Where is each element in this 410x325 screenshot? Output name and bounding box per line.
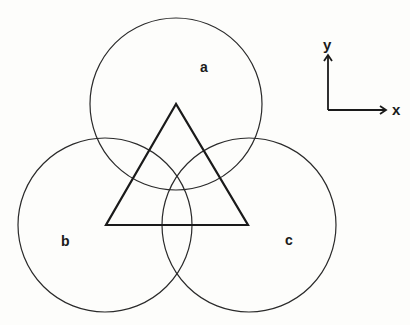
circle-label-c: c	[285, 232, 293, 248]
x-axis-label: x	[392, 101, 401, 118]
circle-labels: abc	[61, 59, 293, 249]
axes-indicator: x y	[323, 36, 401, 118]
circle-label-a: a	[200, 59, 208, 75]
diagram-canvas: abc x y	[0, 0, 410, 325]
circle-label-b: b	[61, 233, 70, 249]
y-axis-label: y	[323, 36, 332, 53]
triangle	[106, 104, 248, 225]
circles-group	[18, 18, 336, 312]
